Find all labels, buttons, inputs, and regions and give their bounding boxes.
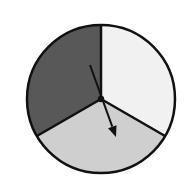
- spinner-hub: [98, 96, 104, 102]
- spinner-diagram: [0, 0, 184, 190]
